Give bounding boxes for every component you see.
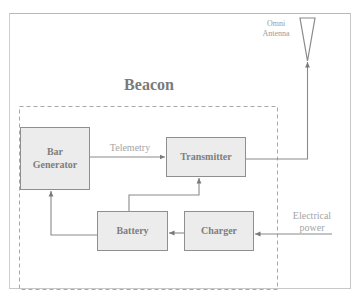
antenna-label-line2: Antenna [252, 29, 300, 39]
electrical-power-label: Electrical power [284, 210, 340, 234]
transmitter-label: Transmitter [180, 151, 231, 164]
block-battery: Battery [97, 211, 168, 251]
edge-battery-bargenerator [51, 191, 97, 235]
bar-generator-line1: Bar [33, 146, 77, 159]
block-bar-generator: Bar Generator [20, 127, 90, 190]
charger-label: Charger [201, 225, 237, 238]
block-transmitter: Transmitter [166, 137, 246, 177]
battery-label: Battery [116, 225, 148, 238]
antenna-icon [300, 18, 315, 61]
diagram-title: Beacon [118, 76, 180, 94]
electrical-power-line1: Electrical [284, 210, 340, 222]
edge-battery-transmitter [129, 178, 199, 211]
bar-generator-line2: Generator [33, 159, 77, 172]
antenna-label-line1: Omni [252, 19, 300, 29]
electrical-power-line2: power [284, 222, 340, 234]
block-charger: Charger [184, 211, 254, 251]
antenna-label: Omni Antenna [252, 19, 300, 39]
telemetry-label: Telemetry [100, 142, 160, 154]
edge-transmitter-antenna [246, 62, 308, 159]
